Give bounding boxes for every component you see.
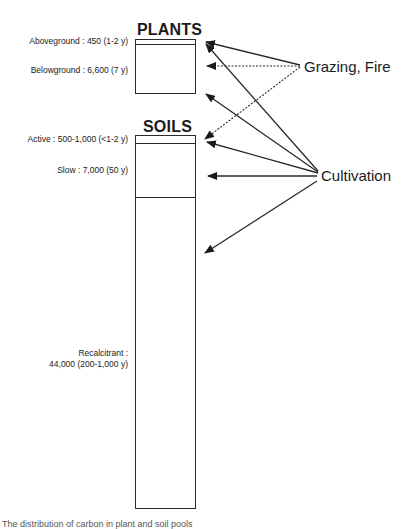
figure-caption: The distribution of carbon in plant and … [2, 519, 193, 529]
arrow-cultivation-to-recalcitrant [205, 181, 317, 253]
arrow-cultivation-to-aboveground [206, 44, 318, 171]
arrow-cultivation-to-active [207, 142, 318, 173]
arrow-cultivation-to-belowground [206, 94, 318, 172]
arrow-grazing-to-aboveground [206, 42, 300, 65]
